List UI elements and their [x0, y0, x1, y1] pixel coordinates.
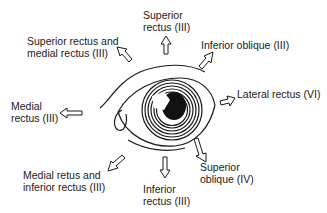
- label-superior-oblique: Superior oblique (IV): [200, 161, 254, 185]
- arrow-superior-oblique: [194, 138, 206, 162]
- label-line: Medial retus and: [23, 169, 105, 181]
- arrow-inferior-oblique: [199, 52, 213, 69]
- arrow-lateral-rectus: [220, 96, 235, 106]
- arrow-superior-rectus: [161, 36, 171, 54]
- label-inferior-oblique: Inferior oblique (III): [201, 39, 289, 51]
- label-superior-medial: Superior rectus and medial rectus (III): [27, 35, 119, 59]
- label-line: Superior: [200, 161, 254, 173]
- label-line: rectus (III): [143, 195, 190, 207]
- label-line: Superior rectus and: [27, 35, 119, 47]
- label-line: rectus (III): [143, 21, 190, 33]
- label-superior-rectus: Superior rectus (III): [143, 9, 190, 33]
- label-line: oblique (IV): [200, 173, 254, 185]
- label-line: Inferior: [143, 183, 190, 195]
- label-line: Inferior oblique (III): [201, 39, 289, 51]
- arrow-superior-medial: [117, 47, 132, 62]
- label-medial-rectus: Medial rectus (III): [11, 100, 58, 124]
- label-line: Superior: [143, 9, 190, 21]
- label-line: Lateral rectus (VI): [237, 88, 320, 100]
- label-lateral-rectus: Lateral rectus (VI): [237, 88, 320, 100]
- arrow-inferior-rectus: [160, 157, 170, 178]
- label-inferior-rectus: Inferior rectus (III): [143, 183, 190, 207]
- arrow-medial-inferior: [108, 155, 125, 171]
- caruncle: [115, 110, 127, 130]
- label-line: inferior rectus (III): [23, 181, 105, 193]
- label-line: medial rectus (III): [27, 47, 119, 59]
- label-line: rectus (III): [11, 112, 58, 124]
- arrow-medial-rectus: [60, 108, 82, 118]
- label-medial-inferior: Medial retus and inferior rectus (III): [23, 169, 105, 193]
- label-line: Medial: [11, 100, 58, 112]
